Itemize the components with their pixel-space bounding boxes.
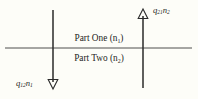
upward-flux-label: q21n2: [153, 6, 170, 15]
flux-up-q-subscript: 21: [157, 9, 163, 15]
flux-up-n-subscript: 2: [167, 9, 170, 15]
part-two-text: Part Two (n: [74, 53, 118, 63]
part-one-subscript: 1: [117, 38, 120, 44]
part-one-text: Part One (n: [75, 33, 118, 43]
flux-down-q-subscript: 12: [20, 82, 26, 88]
part-two-region-label: Part Two (n2): [74, 54, 124, 63]
flux-diagram-figure: Part One (n1) Part Two (n2) q21n2 q12n1: [0, 0, 198, 99]
downward-flux-label: q12n1: [16, 79, 33, 88]
flux-down-n-subscript: 1: [30, 82, 33, 88]
part-one-paren: ): [120, 33, 123, 43]
part-two-paren: ): [121, 53, 124, 63]
part-two-subscript: 2: [118, 58, 121, 64]
part-one-region-label: Part One (n1): [75, 34, 124, 43]
